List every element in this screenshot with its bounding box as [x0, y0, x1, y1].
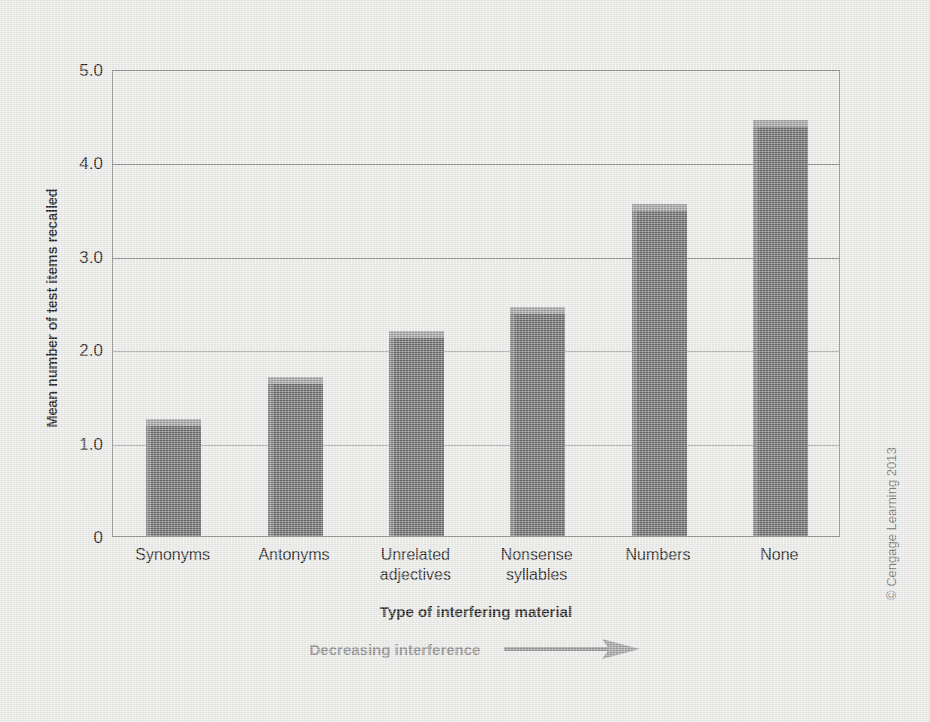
x-tick-label: Nonsense syllables — [476, 545, 597, 585]
y-tick-label: 0 — [94, 528, 103, 548]
y-tick-label: 2.0 — [79, 341, 103, 361]
bar-top-face — [753, 120, 808, 127]
y-tick-label: 4.0 — [79, 154, 103, 174]
bar-body — [146, 419, 201, 536]
y-tick-label: 3.0 — [79, 248, 103, 268]
bar-top-face — [389, 331, 444, 338]
x-tick-label: Synonyms — [112, 545, 233, 565]
annotation-label: Decreasing interference — [310, 641, 481, 658]
x-tick-label: None — [719, 545, 840, 565]
bar — [268, 377, 323, 536]
bar-top-face — [268, 377, 323, 384]
annotation-row: Decreasing interference — [112, 638, 840, 660]
x-tick-label: Numbers — [597, 545, 718, 565]
right-arrow-icon — [502, 638, 642, 660]
bar-top-face — [510, 307, 565, 314]
bar-body — [389, 331, 444, 536]
y-axis-title: Mean number of test items recalled — [44, 98, 60, 518]
bar-body — [632, 204, 687, 536]
bar-top-face — [146, 419, 201, 426]
bar-body — [510, 307, 565, 536]
bar-top-face — [632, 204, 687, 211]
x-tick-label: Unrelated adjectives — [355, 545, 476, 585]
bar — [632, 204, 687, 536]
bar-chart-figure: Mean number of test items recalled 01.02… — [0, 0, 930, 722]
x-axis-title: Type of interfering material — [112, 603, 840, 620]
plot-area: 01.02.03.04.05.0 — [112, 70, 840, 537]
bar — [753, 120, 808, 536]
y-tick-label: 1.0 — [79, 435, 103, 455]
x-tick-label: Antonyms — [233, 545, 354, 565]
bar-body — [753, 120, 808, 536]
bars-layer — [113, 71, 839, 536]
bar — [389, 331, 444, 536]
y-tick-label: 5.0 — [79, 61, 103, 81]
bar — [146, 419, 201, 536]
bar — [510, 307, 565, 536]
bar-body — [268, 377, 323, 536]
copyright-credit: © Cengage Learning 2013 — [884, 447, 899, 600]
